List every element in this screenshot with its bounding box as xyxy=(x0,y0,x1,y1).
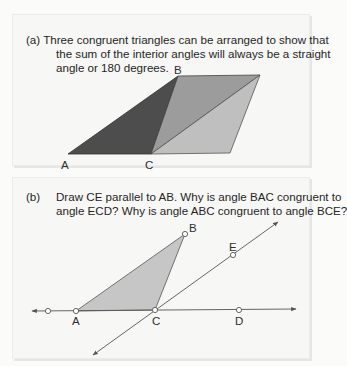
figure-a: A B C xyxy=(61,64,260,171)
point-marker-D xyxy=(236,307,241,312)
point-label-a-A: A xyxy=(61,159,69,171)
point-label-b-C: C xyxy=(152,315,160,327)
point-label-a-B: B xyxy=(174,64,182,76)
point-label-b-E: E xyxy=(229,241,237,253)
point-label-b-A: A xyxy=(72,315,80,327)
point-marker-C xyxy=(152,307,157,312)
point-marker-B xyxy=(182,231,187,236)
point-label-a-C: C xyxy=(145,159,153,171)
point-marker-A xyxy=(73,308,78,313)
point-marker-left xyxy=(45,308,50,313)
figure-b: A B C D E xyxy=(32,222,296,355)
line-acd xyxy=(32,309,296,311)
point-marker-E xyxy=(230,252,235,257)
triangle-abc xyxy=(76,234,185,311)
point-label-b-B: B xyxy=(189,222,197,234)
point-label-b-D: D xyxy=(235,315,243,327)
